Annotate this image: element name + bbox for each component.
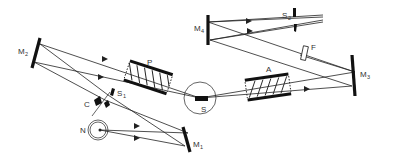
svg-text:F: F xyxy=(311,43,316,52)
mirror-m3 xyxy=(352,55,355,96)
svg-text:2: 2 xyxy=(288,15,291,21)
svg-text:S: S xyxy=(117,89,122,98)
sample-s: S xyxy=(184,82,216,114)
label-m4: M xyxy=(194,24,201,33)
label-m2: M xyxy=(18,47,25,56)
svg-text:3: 3 xyxy=(367,74,370,80)
svg-text:4: 4 xyxy=(201,28,204,34)
label-m1: M xyxy=(193,140,200,149)
analyzer-a xyxy=(245,74,291,100)
optical-diagram: N M 1 M 2 M 3 M 4 S 2 F P S xyxy=(0,0,409,168)
svg-text:2: 2 xyxy=(25,51,28,57)
mirror-m1 xyxy=(183,127,190,152)
label-a: A xyxy=(266,65,272,74)
slit-s1: S 1 xyxy=(110,88,126,99)
svg-text:1: 1 xyxy=(200,144,203,150)
svg-text:C: C xyxy=(84,100,90,109)
svg-text:1: 1 xyxy=(123,93,126,99)
label-m3: M xyxy=(360,70,367,79)
svg-text:S: S xyxy=(282,11,287,20)
label-p: P xyxy=(147,58,152,67)
svg-text:S: S xyxy=(201,105,206,114)
label-n: N xyxy=(80,126,86,135)
